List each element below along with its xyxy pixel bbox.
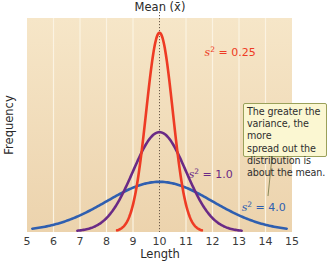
callout-line: distribution is: [247, 155, 326, 167]
x-tick-label: 5: [24, 235, 31, 248]
x-tick-label: 6: [50, 235, 57, 248]
callout-line: The greater the: [247, 106, 326, 118]
callout-line: spread out the: [247, 143, 326, 155]
x-tick-label: 12: [206, 235, 220, 248]
x-tick-label: 15: [285, 235, 299, 248]
mean-label: Mean (x̄): [135, 0, 186, 14]
annotation-callout: The greater the variance, the more sprea…: [243, 103, 327, 157]
x-tick-label: 9: [130, 235, 137, 248]
x-tick-label: 14: [259, 235, 273, 248]
x-tick-label: 8: [103, 235, 110, 248]
x-axis-label: Length: [140, 247, 180, 261]
x-tick-label: 13: [232, 235, 246, 248]
callout-line: about the mean.: [247, 167, 326, 179]
x-tick-label: 7: [77, 235, 84, 248]
x-tick-label: 11: [179, 235, 193, 248]
callout-line: variance, the more: [247, 118, 326, 142]
y-axis-label: Frequency: [2, 95, 16, 155]
